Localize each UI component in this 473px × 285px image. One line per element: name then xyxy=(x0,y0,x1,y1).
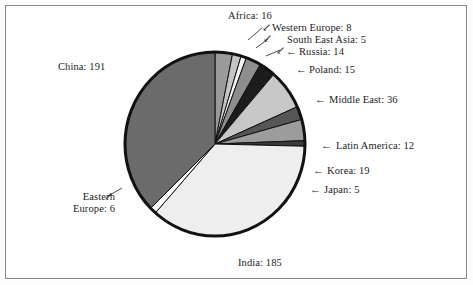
slice-label-india: India: 185 xyxy=(238,257,282,269)
pie-chart-figure: Africa: 16 ↙ Western Europe: 8 ↙ South E… xyxy=(0,0,473,285)
slice-label-japan: Japan: 5 xyxy=(324,184,360,196)
eastern-europe-line2: Europe: 6 xyxy=(73,203,115,214)
chart-area: Africa: 16 ↙ Western Europe: 8 ↙ South E… xyxy=(0,0,473,285)
slice-label-china: China: 191 xyxy=(58,61,105,73)
leader-arrow-eastern-europe: ↗ xyxy=(104,191,113,202)
slice-label-middle-east: Middle East: 36 xyxy=(329,94,398,106)
leader-arrow-middle-east: ← xyxy=(315,94,326,105)
slice-label-poland: Poland: 15 xyxy=(309,64,355,76)
leader-line-0 xyxy=(248,28,262,40)
leader-arrow-russia: ← xyxy=(286,46,297,57)
slice-label-south-east-asia: South East Asia: 5 xyxy=(287,34,366,46)
slice-label-western-europe: Western Europe: 8 xyxy=(272,22,352,34)
slice-label-latin-america: Latin America: 12 xyxy=(336,140,414,152)
leader-arrow-korea: ← xyxy=(313,165,324,176)
leader-arrow-japan: ← xyxy=(310,184,321,195)
leader-arrow-poland: ← xyxy=(296,64,307,75)
leader-arrow-south-east-asia: ↙ xyxy=(276,45,285,56)
leader-arrow-western-europe: ↙ xyxy=(263,33,272,44)
slice-label-korea: Korea: 19 xyxy=(327,165,370,177)
pie-slices-group xyxy=(125,52,305,236)
leader-arrow-latin-america: ← xyxy=(321,140,332,151)
slice-label-russia: Russia: 14 xyxy=(299,46,344,58)
